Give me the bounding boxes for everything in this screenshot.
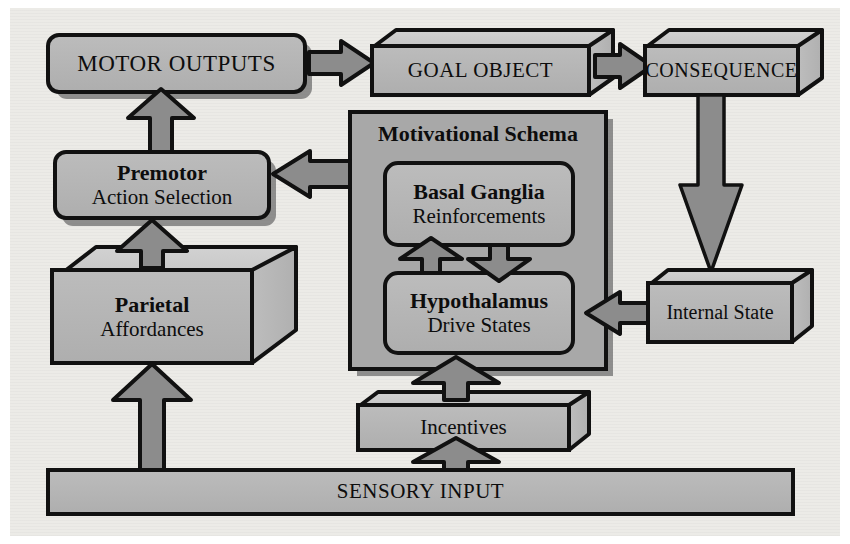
edge-consequence-to-internal-state [680,95,742,272]
node-motor-outputs[interactable] [48,35,305,92]
edge-motor-outputs-to-goal-object [309,41,374,85]
node-goal-object[interactable] [372,30,613,95]
diagram-svg [0,0,850,544]
node-parietal[interactable] [52,247,296,363]
node-internal-state[interactable] [648,270,812,342]
edge-sensory-input-to-parietal [113,364,191,472]
node-sensory-input[interactable] [48,470,793,514]
node-premotor[interactable] [55,152,269,218]
diagram-canvas: MOTOR OUTPUTS GOAL OBJECT CONSEQUENCE Mo… [0,0,850,544]
edge-motivational-schema-to-premotor [273,151,350,197]
node-incentives[interactable] [358,392,589,450]
node-consequence[interactable] [645,30,822,95]
node-basal-ganglia[interactable] [385,163,573,245]
node-hypothalamus[interactable] [385,273,573,353]
